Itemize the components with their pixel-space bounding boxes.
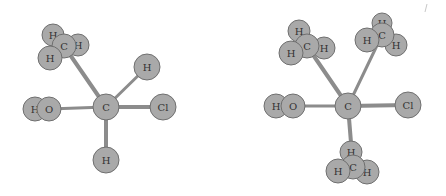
atom-label: H <box>334 166 343 177</box>
atom-right-ha3: H <box>279 41 303 65</box>
atoms-left: HHCHHOHClHC <box>23 24 176 173</box>
atoms-right: HHCHHHCHHOClHHCHC <box>264 13 421 184</box>
atom-label: O <box>289 101 297 112</box>
atom-left-o: O <box>37 97 61 121</box>
atom-label: H <box>392 40 401 51</box>
atom-label: H <box>287 48 296 59</box>
atom-label: C <box>102 102 110 113</box>
atom-label: H <box>102 155 111 166</box>
atom-left-h2: H <box>93 147 119 173</box>
atom-right-c1: C <box>335 93 361 119</box>
atoms-layer: HHCHHOHClHCHHCHHHCHHOClHHCHC <box>23 13 421 184</box>
atom-left-h1: H <box>134 54 160 80</box>
atom-label: H <box>320 43 329 54</box>
atom-left-cl: Cl <box>150 94 176 120</box>
atom-label: Cl <box>158 102 169 113</box>
atom-right-o: O <box>281 94 305 118</box>
atom-label: C <box>344 101 352 112</box>
atom-right-hb2: H <box>355 28 379 52</box>
atom-label: H <box>46 53 55 64</box>
atom-label: Cl <box>403 100 414 111</box>
molecule-diagram: HHCHHOHClHCHHCHHHCHHOClHHCHC <box>0 0 446 196</box>
atom-label: H <box>272 101 281 112</box>
atom-label: C <box>60 41 68 52</box>
atom-label: H <box>143 62 152 73</box>
atom-label: C <box>303 41 311 52</box>
atom-left-c1: C <box>93 94 119 120</box>
atom-left-hm3: H <box>38 46 62 70</box>
stray-mark <box>425 4 427 12</box>
atom-label: H <box>363 35 372 46</box>
atom-right-hc2: H <box>326 159 350 183</box>
atom-label: O <box>45 104 53 115</box>
atom-right-cl: Cl <box>395 92 421 118</box>
